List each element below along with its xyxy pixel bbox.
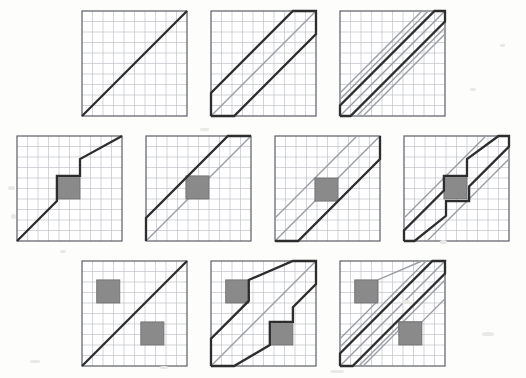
panel-r1c1 bbox=[79, 8, 190, 119]
panel-r1c2 bbox=[208, 8, 319, 119]
panel-r2c1-canvas bbox=[14, 133, 125, 244]
panel-r2c3 bbox=[272, 133, 383, 244]
panel-r2c4-canvas bbox=[401, 133, 512, 244]
scan-speckle bbox=[330, 370, 344, 373]
panel-r2c2-canvas bbox=[143, 133, 254, 244]
panel-r3c2 bbox=[208, 258, 319, 369]
obstacle-square bbox=[225, 280, 248, 303]
obstacle-square bbox=[354, 280, 377, 303]
obstacle-square bbox=[186, 176, 209, 199]
obstacle-square bbox=[96, 280, 119, 303]
panel-r1c2-canvas bbox=[208, 8, 319, 119]
panel-r2c1 bbox=[14, 133, 125, 244]
scan-speckle bbox=[200, 128, 209, 131]
panel-r1c1-canvas bbox=[79, 8, 190, 119]
obstacle-group bbox=[444, 176, 467, 199]
obstacle-square bbox=[269, 322, 292, 345]
panel-r2c2 bbox=[143, 133, 254, 244]
figure-root bbox=[0, 0, 526, 378]
row-one-obstacle bbox=[0, 133, 526, 244]
scan-speckle bbox=[60, 250, 66, 253]
panel-r3c2-canvas bbox=[208, 258, 319, 369]
obstacle-square bbox=[398, 322, 421, 345]
row-two-obstacles bbox=[0, 258, 526, 369]
obstacle-square bbox=[140, 322, 163, 345]
panel-r3c1-canvas bbox=[79, 258, 190, 369]
obstacle-group bbox=[186, 176, 209, 199]
panel-r1c3-canvas bbox=[337, 8, 448, 119]
panel-r2c4 bbox=[401, 133, 512, 244]
obstacle-square bbox=[444, 176, 467, 199]
obstacle-group bbox=[315, 178, 338, 201]
panel-r1c3 bbox=[337, 8, 448, 119]
panel-r3c1 bbox=[79, 258, 190, 369]
panel-r3c3 bbox=[337, 258, 448, 369]
row-no-obstacle bbox=[0, 8, 526, 119]
panel-r2c3-canvas bbox=[272, 133, 383, 244]
obstacle-group bbox=[57, 176, 80, 199]
obstacle-square bbox=[315, 178, 338, 201]
panel-r3c3-canvas bbox=[337, 258, 448, 369]
obstacle-square bbox=[57, 176, 80, 199]
